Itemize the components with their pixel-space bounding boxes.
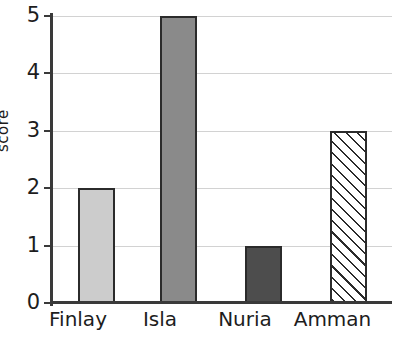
y-tick-label-3: 3 — [14, 120, 40, 141]
y-tick-mark-4 — [44, 72, 53, 74]
x-label-finlay: Finlay — [38, 308, 118, 330]
y-axis-line — [50, 13, 53, 306]
y-tick-label-1: 1 — [14, 235, 40, 256]
bar-finlay — [78, 188, 115, 303]
gridline-5 — [53, 16, 392, 17]
x-label-isla: Isla — [120, 308, 200, 330]
x-axis-line — [50, 301, 392, 304]
y-tick-mark-2 — [44, 187, 53, 189]
bar-amman — [330, 131, 367, 303]
y-tick-label-2: 2 — [14, 177, 40, 198]
y-tick-mark-5 — [44, 15, 53, 17]
y-tick-mark-1 — [44, 245, 53, 247]
bar-isla — [160, 16, 197, 303]
y-tick-label-4: 4 — [14, 62, 40, 83]
y-tick-mark-3 — [44, 130, 53, 132]
plot-area — [53, 16, 392, 303]
y-tick-label-0: 0 — [14, 292, 40, 313]
x-label-nuria: Nuria — [205, 308, 285, 330]
y-tick-label-5: 5 — [14, 5, 40, 26]
x-label-amman: Amman — [290, 308, 375, 330]
bar-nuria — [245, 246, 282, 303]
y-tick-mark-0 — [44, 302, 53, 304]
gridline-4 — [53, 73, 392, 74]
bar-chart: 5 4 3 2 1 0 score Finlay Isla Nuria Amma… — [0, 0, 402, 339]
y-axis-title: score — [0, 109, 12, 152]
